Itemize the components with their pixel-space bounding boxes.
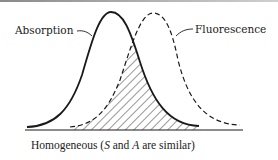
fluorescence-label: Fluorescence — [195, 23, 266, 35]
absorption-label: Absorption — [14, 24, 74, 36]
figure-caption: Homogeneous (S and A are similar) — [31, 139, 195, 152]
absorption-leader-line — [77, 31, 92, 36]
fluorescence-leader-line — [176, 29, 193, 36]
spectra-diagram: Absorption Fluorescence Homogeneous (S a… — [0, 0, 278, 160]
